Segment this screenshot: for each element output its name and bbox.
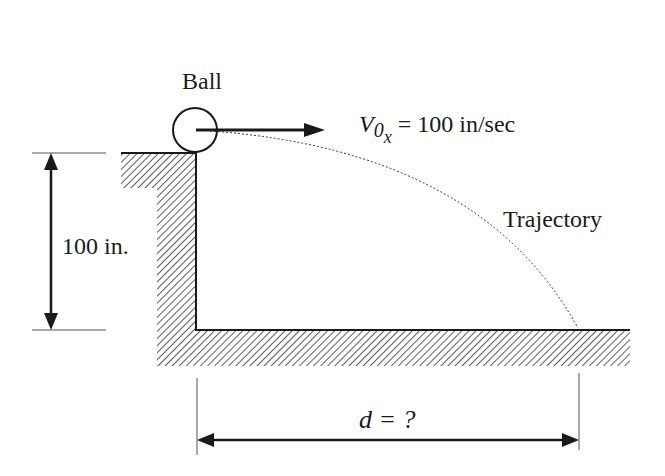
velocity-symbol: V	[359, 111, 374, 137]
ground-structure	[121, 153, 630, 366]
distance-label: d = ?	[359, 405, 416, 435]
height-label: 100 in.	[62, 233, 129, 260]
trajectory-label: Trajectory	[503, 206, 602, 233]
velocity-value: = 100 in/sec	[398, 111, 516, 137]
ball-label: Ball	[182, 68, 222, 95]
velocity-subsubscript: x	[384, 127, 392, 147]
velocity-label: V0x = 100 in/sec	[359, 111, 515, 138]
velocity-subscript: 0	[374, 119, 384, 141]
velocity-arrow	[196, 123, 325, 137]
